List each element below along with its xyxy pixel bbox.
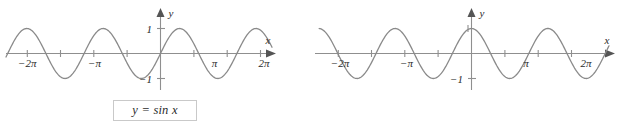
x-tick-label-pi-sin: π	[212, 57, 218, 69]
y-tick-label-neg1-sin: −1	[139, 73, 152, 85]
x-axis-label-sin: x	[265, 34, 271, 46]
trig-graph-figure: −2π −π π 2π 1 −1 x y y = sin x	[0, 0, 621, 126]
x-tick-label-negpi-cos: −π	[400, 57, 413, 69]
x-tick-label-negpi-sin: −π	[88, 57, 101, 69]
y-tick-label-neg1-cos: −1	[450, 73, 463, 85]
x-tick-label-neg2pi-sin: −2π	[18, 57, 37, 69]
x-tick-label-neg2pi-cos: −2π	[331, 57, 350, 69]
y-axis-label-cos: y	[479, 7, 485, 19]
panel-sin: −2π −π π 2π 1 −1 x y y = sin x	[0, 0, 310, 126]
caption-sin: y = sin x	[113, 100, 197, 121]
plot-sin: −2π −π π 2π 1 −1 x y	[0, 0, 310, 95]
y-tick-label-pos1-sin: 1	[147, 23, 153, 35]
x-tick-label-pi-cos: π	[523, 57, 529, 69]
y-axis-arrow-cos	[468, 8, 476, 17]
x-tick-label-2pi-sin: 2π	[258, 57, 270, 69]
x-tick-label-2pi-cos: 2π	[580, 57, 592, 69]
x-axis-label-cos: x	[604, 34, 610, 46]
y-axis-arrow-sin	[157, 8, 165, 17]
plot-cos: −2π −π π 2π −1 x y	[311, 0, 621, 95]
panel-cos: −2π −π π 2π −1 x y y = cos x	[311, 0, 621, 126]
y-axis-label-sin: y	[168, 7, 174, 19]
